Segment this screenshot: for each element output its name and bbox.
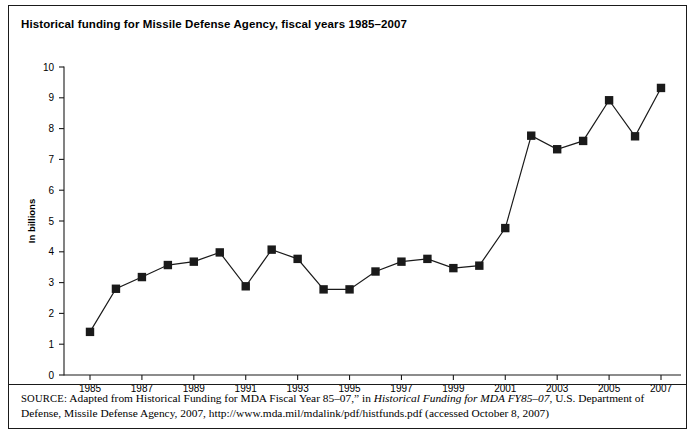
data-line [90, 88, 661, 332]
data-point-marker [605, 96, 613, 104]
y-tick-label: 6 [48, 185, 54, 196]
data-point-marker [190, 257, 198, 265]
figure-container: Historical funding for Missile Defense A… [8, 5, 687, 429]
source-text-part1: Adapted from Historical Funding for MDA … [67, 392, 374, 404]
data-point-marker [553, 145, 561, 153]
data-point-marker [345, 285, 353, 293]
line-chart: 0123456789101985198719891991199319951997… [9, 6, 688, 430]
source-note: SOURCE: Adapted from Historical Funding … [9, 384, 686, 428]
plot-area: 0123456789101985198719891991199319951997… [9, 6, 688, 430]
data-point-marker [267, 245, 275, 253]
y-tick-label: 9 [48, 92, 54, 103]
data-point-marker [216, 248, 224, 256]
data-point-marker [86, 328, 94, 336]
y-tick-label: 3 [48, 277, 54, 288]
source-text: SOURCE: Adapted from Historical Funding … [21, 391, 672, 421]
data-point-marker [579, 137, 587, 145]
data-point-marker [319, 285, 327, 293]
source-italic-title: Historical Funding for MDA FY85–07 [374, 392, 550, 404]
data-point-marker [371, 267, 379, 275]
data-point-marker [501, 224, 509, 232]
y-tick-label: 2 [48, 308, 54, 319]
y-tick-label: 10 [43, 62, 55, 73]
y-tick-label: 0 [48, 370, 54, 381]
y-tick-label: 8 [48, 123, 54, 134]
data-point-marker [475, 261, 483, 269]
data-point-marker [527, 131, 535, 139]
data-point-marker [657, 84, 665, 92]
data-point-marker [293, 255, 301, 263]
y-axis-title: In billions [26, 199, 37, 243]
y-tick-label: 1 [48, 339, 54, 350]
data-point-marker [138, 273, 146, 281]
data-point-marker [423, 255, 431, 263]
data-point-marker [242, 282, 250, 290]
data-point-marker [449, 264, 457, 272]
source-label: SOURCE: [21, 393, 67, 404]
data-point-marker [397, 257, 405, 265]
data-point-marker [112, 285, 120, 293]
data-point-marker [164, 261, 172, 269]
y-tick-label: 5 [48, 216, 54, 227]
y-tick-label: 4 [48, 246, 54, 257]
y-tick-label: 7 [48, 154, 54, 165]
data-point-marker [631, 132, 639, 140]
